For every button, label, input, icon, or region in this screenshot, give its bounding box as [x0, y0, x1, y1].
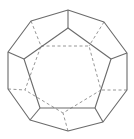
hidden-edge — [89, 22, 104, 46]
back-pentagon — [25, 46, 101, 113]
front-pentagon — [24, 28, 111, 108]
visible-edge — [30, 108, 40, 120]
hidden-edge — [31, 21, 41, 46]
visible-edges — [8, 10, 127, 131]
visible-edge — [95, 108, 103, 122]
hidden-edge — [8, 89, 25, 90]
hidden-edge — [63, 113, 68, 131]
dodecahedron-diagram — [0, 0, 134, 139]
visible-edge — [111, 53, 127, 59]
visible-edge — [8, 52, 24, 59]
